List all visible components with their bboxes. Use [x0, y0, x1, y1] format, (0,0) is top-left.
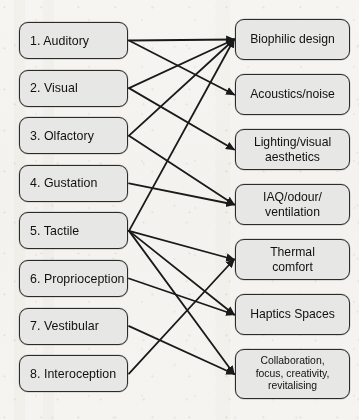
node-label: 7. Vestibular: [30, 319, 99, 333]
edge-group: [129, 40, 234, 375]
edge-L3-to-R1: [129, 40, 234, 136]
node-label: 4. Gustation: [30, 176, 97, 190]
node-label: 1. Auditory: [30, 34, 89, 48]
edge-L2-to-R3: [129, 88, 234, 149]
edge-L6-to-R6: [129, 279, 234, 315]
node-sense-olfactory[interactable]: 3. Olfactory: [19, 117, 128, 154]
node-label: Thermal comfort: [270, 245, 315, 274]
edge-L2-to-R1: [129, 40, 234, 89]
node-strategy-iaq-odour-ventilation[interactable]: IAQ/odour/ ventilation: [235, 184, 350, 225]
edge-L5-to-R5: [129, 231, 234, 260]
edge-L1-to-R1: [129, 40, 234, 41]
node-sense-gustation[interactable]: 4. Gustation: [19, 165, 128, 202]
node-label: 8. Interoception: [30, 367, 116, 381]
edge-L8-to-R5: [129, 260, 234, 374]
node-label: 3. Olfactory: [30, 129, 94, 143]
diagram-canvas: 1. Auditory2. Visual3. Olfactory4. Gusta…: [0, 0, 359, 420]
node-label: Haptics Spaces: [250, 307, 335, 321]
node-strategy-collaboration-focus-creativity-rev[interactable]: Collaboration, focus, creativity, revita…: [235, 349, 350, 399]
node-strategy-acoustics-noise[interactable]: Acoustics/noise: [235, 74, 350, 115]
edge-L7-to-R7: [129, 326, 234, 374]
node-strategy-biophilic-design[interactable]: Biophilic design: [235, 19, 350, 60]
node-sense-visual[interactable]: 2. Visual: [19, 70, 128, 107]
node-label: 2. Visual: [30, 81, 78, 95]
node-strategy-thermal-comfort[interactable]: Thermal comfort: [235, 239, 350, 280]
node-strategy-haptics-spaces[interactable]: Haptics Spaces: [235, 294, 350, 335]
node-strategy-lighting-visual-aesthetics[interactable]: Lighting/visual aesthetics: [235, 129, 350, 170]
node-sense-interoception[interactable]: 8. Interoception: [19, 355, 128, 392]
node-sense-auditory[interactable]: 1. Auditory: [19, 22, 128, 59]
node-sense-vestibular[interactable]: 7. Vestibular: [19, 308, 128, 345]
node-label: Collaboration, focus, creativity, revita…: [256, 355, 330, 393]
node-label: 5. Tactile: [30, 224, 79, 238]
node-label: 6. Proprioception: [30, 272, 125, 286]
node-label: Acoustics/noise: [250, 87, 335, 101]
node-label: Biophilic design: [250, 32, 335, 46]
node-label: Lighting/visual aesthetics: [254, 135, 331, 164]
node-sense-proprioception[interactable]: 6. Proprioception: [19, 260, 128, 297]
node-label: IAQ/odour/ ventilation: [263, 190, 322, 219]
node-sense-tactile[interactable]: 5. Tactile: [19, 212, 128, 249]
